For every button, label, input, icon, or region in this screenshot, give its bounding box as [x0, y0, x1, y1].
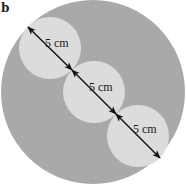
- panel-label: b: [1, 1, 9, 15]
- dimension-label-1: 5 cm: [45, 36, 69, 50]
- diagram-canvas: 5 cm5 cm5 cm b: [0, 0, 186, 184]
- dimension-label-3: 5 cm: [133, 122, 157, 136]
- dimension-label-2: 5 cm: [89, 80, 113, 94]
- diagram-svg: 5 cm5 cm5 cm b: [0, 0, 186, 184]
